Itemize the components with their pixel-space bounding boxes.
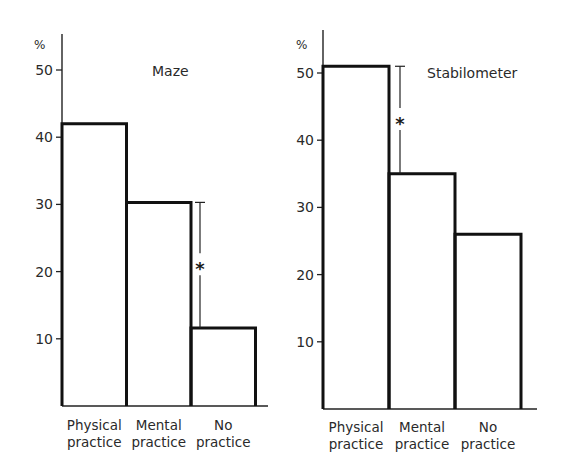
category-label: Mental [399,419,445,435]
bar-mental-practice [389,174,455,409]
y-tick-label: 20 [35,264,53,280]
y-tick-label: 50 [35,62,53,78]
y-tick-label: 20 [296,267,314,283]
chart-title: Maze [152,63,189,79]
y-tick-label: 30 [296,199,314,215]
category-label: practice [67,434,122,450]
chart-panel-stabilometer: %1020304050StabilometerPhysicalpracticeM… [296,30,537,452]
bar-physical-practice [62,124,127,406]
y-tick-label: 50 [296,65,314,81]
category-label: practice [395,436,450,452]
significance-marker: * [195,202,205,328]
significance-marker: * [395,66,405,174]
bar-no-practice [455,234,521,409]
chart-panel-maze: %1020304050MazePhysicalpracticeMentalpra… [34,34,268,450]
y-tick-label: 40 [35,129,53,145]
y-axis-unit: % [296,38,307,52]
asterisk-icon: * [195,258,205,279]
category-label: practice [196,434,251,450]
category-label: Mental [136,417,182,433]
category-label: Physical [329,419,384,435]
category-label: No [214,417,232,433]
bar-mental-practice [127,202,192,406]
bar-physical-practice [323,66,389,409]
y-axis-unit: % [34,38,45,52]
bar-no-practice [191,328,256,406]
category-label: practice [461,436,516,452]
category-label: No [479,419,497,435]
category-label: Physical [67,417,122,433]
category-label: practice [329,436,384,452]
y-tick-label: 40 [296,132,314,148]
y-tick-label: 10 [296,334,314,350]
asterisk-icon: * [395,113,405,134]
chart-title: Stabilometer [427,65,518,81]
y-tick-label: 10 [35,331,53,347]
y-tick-label: 30 [35,196,53,212]
chart-figure: %1020304050MazePhysicalpracticeMentalpra… [0,0,571,474]
category-label: practice [131,434,186,450]
